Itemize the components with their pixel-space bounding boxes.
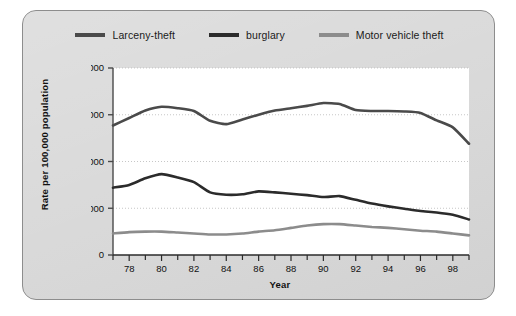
chart-legend: Larceny-theft burglary Motor vehicle the… [23,25,496,45]
svg-text:98: 98 [448,263,459,273]
line-swatch-icon [75,33,105,37]
line-swatch-icon [319,33,349,37]
y-tick-marks [108,68,113,255]
plot-area: 01,0002,0003,0004,000 788082848688909294… [91,58,471,273]
y-axis-title: Rate per 100,000 population [39,55,50,235]
svg-text:3,000: 3,000 [91,109,104,120]
svg-text:90: 90 [318,263,329,273]
svg-text:1,000: 1,000 [91,203,104,214]
y-tick-labels: 01,0002,0003,0004,000 [91,62,104,260]
svg-text:78: 78 [124,263,135,273]
legend-item-burglary: burglary [209,29,285,41]
line-swatch-icon [209,33,239,37]
legend-label: burglary [246,29,285,41]
legend-label: Larceny-theft [112,29,175,41]
line-chart-svg: 01,0002,0003,0004,000 788082848688909294… [91,58,471,273]
x-tick-marks [113,255,469,261]
svg-text:92: 92 [350,263,361,273]
legend-item-larceny-theft: Larceny-theft [75,29,175,41]
svg-text:0: 0 [99,249,104,260]
svg-text:86: 86 [253,263,264,273]
svg-text:96: 96 [415,263,426,273]
legend-item-motor-vehicle-theft: Motor vehicle theft [319,29,444,41]
x-tick-labels: 7880828486889092949698 [124,263,458,273]
svg-text:88: 88 [286,263,297,273]
svg-text:84: 84 [221,263,232,273]
svg-text:80: 80 [156,263,167,273]
svg-text:2,000: 2,000 [91,156,104,167]
x-axis-title: Year [91,279,469,290]
figure-card: Larceny-theft burglary Motor vehicle the… [22,10,495,300]
legend-label: Motor vehicle theft [356,29,444,41]
svg-text:82: 82 [189,263,200,273]
svg-text:94: 94 [383,263,394,273]
svg-text:4,000: 4,000 [91,62,104,73]
